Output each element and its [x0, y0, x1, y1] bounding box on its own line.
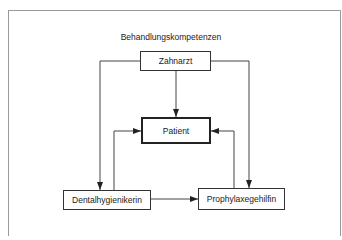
- node-prophylaxegehilfin: Prophylaxegehilfin: [198, 188, 285, 210]
- edge-zahnarzt-prophylaxegehilfin: [211, 61, 249, 188]
- edge-zahnarzt-dentalhygienikerin: [100, 61, 140, 190]
- edge-dentalhygienikerin-patient: [114, 131, 141, 190]
- diagram-title: Behandlungskompetenzen: [0, 32, 342, 42]
- edge-prophylaxegehilfin-patient: [211, 131, 234, 188]
- node-patient: Patient: [141, 117, 211, 144]
- node-dentalhygienikerin: Dentalhygienikerin: [63, 190, 151, 210]
- node-zahnarzt: Zahnarzt: [140, 51, 211, 71]
